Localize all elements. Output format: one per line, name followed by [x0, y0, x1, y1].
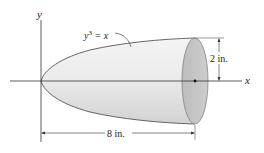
radius-dimension-label: 2 in. [210, 53, 228, 64]
x-axis-label: x [244, 74, 250, 86]
length-arrow-right [191, 132, 195, 135]
length-arrow-left [41, 132, 45, 135]
radius-arrow-bottom [218, 77, 221, 81]
y-axis-label: y [36, 8, 42, 20]
radius-arrow-top [218, 38, 221, 42]
center-point [194, 80, 197, 83]
curve-equation-label: y3 = x [83, 29, 109, 41]
length-dimension-label: 8 in. [107, 128, 125, 139]
solid-of-revolution-diagram: y x y3 = x 2 in. 8 in. [0, 0, 264, 153]
